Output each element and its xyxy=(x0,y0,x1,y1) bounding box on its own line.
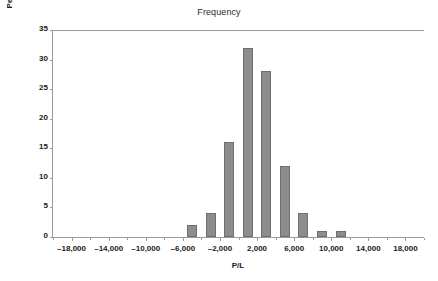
x-tick-label: –10,000 xyxy=(131,244,160,253)
histogram-bar xyxy=(243,48,253,237)
x-tick-mark xyxy=(405,238,406,241)
x-minor-tick-mark xyxy=(164,238,165,240)
x-tick-mark xyxy=(331,238,332,241)
y-tick-mark xyxy=(50,119,53,120)
x-tick-mark xyxy=(294,238,295,241)
y-tick-label: 0 xyxy=(44,231,48,240)
x-tick-label: 14,000 xyxy=(356,244,380,253)
x-tick-mark xyxy=(72,238,73,241)
x-minor-tick-mark xyxy=(313,238,314,240)
y-tick-mark xyxy=(50,178,53,179)
y-tick-mark xyxy=(50,89,53,90)
histogram-bar xyxy=(317,231,327,237)
x-tick-label: 18,000 xyxy=(393,244,417,253)
x-tick-mark xyxy=(220,238,221,241)
x-minor-tick-mark xyxy=(239,238,240,240)
x-minor-tick-mark xyxy=(53,238,54,240)
x-tick-label: 6,000 xyxy=(284,244,304,253)
chart-title: Frequency xyxy=(0,7,438,17)
histogram-bar xyxy=(206,213,216,237)
y-tick-label: 20 xyxy=(39,113,48,122)
x-tick-mark xyxy=(257,238,258,241)
histogram-bar xyxy=(298,213,308,237)
y-tick-mark xyxy=(50,30,53,31)
histogram-bar xyxy=(187,225,197,237)
histogram-bar xyxy=(280,166,290,237)
x-tick-mark xyxy=(368,238,369,241)
histogram-bar xyxy=(261,71,271,237)
x-tick-mark xyxy=(146,238,147,241)
histogram-bar xyxy=(336,231,346,237)
x-minor-tick-mark xyxy=(387,238,388,240)
x-minor-tick-mark xyxy=(424,238,425,240)
x-tick-mark xyxy=(183,238,184,241)
x-tick-label: 10,000 xyxy=(319,244,343,253)
y-tick-label: 30 xyxy=(39,54,48,63)
y-tick-mark xyxy=(50,60,53,61)
y-tick-label: 25 xyxy=(39,83,48,92)
x-tick-label: –2,000 xyxy=(208,244,232,253)
plot-area: 05101520253035–18,000–14,000–10,000–6,00… xyxy=(52,30,424,238)
frequency-histogram-chart: Frequency Percentage of Observations 051… xyxy=(0,0,438,281)
histogram-bar xyxy=(224,142,234,237)
y-axis-label: Percentage of Observations xyxy=(5,0,19,58)
x-tick-label: –6,000 xyxy=(171,244,195,253)
y-tick-label: 15 xyxy=(39,142,48,151)
y-tick-mark xyxy=(50,207,53,208)
y-tick-label: 10 xyxy=(39,172,48,181)
y-tick-label: 35 xyxy=(39,24,48,33)
x-axis-label: P/L xyxy=(52,261,424,270)
x-tick-label: –18,000 xyxy=(57,244,86,253)
x-minor-tick-mark xyxy=(276,238,277,240)
x-minor-tick-mark xyxy=(127,238,128,240)
x-tick-label: 2,000 xyxy=(247,244,267,253)
x-minor-tick-mark xyxy=(90,238,91,240)
x-tick-mark xyxy=(109,238,110,241)
y-tick-label: 5 xyxy=(44,201,48,210)
x-tick-label: –14,000 xyxy=(94,244,123,253)
y-tick-mark xyxy=(50,148,53,149)
x-minor-tick-mark xyxy=(201,238,202,240)
x-minor-tick-mark xyxy=(350,238,351,240)
